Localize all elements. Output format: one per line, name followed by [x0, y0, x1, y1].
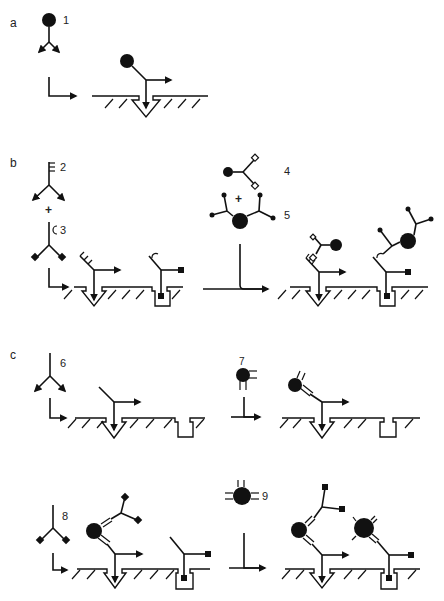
- hatched-surface-icon: [280, 418, 420, 438]
- panel-label-b: b: [10, 156, 17, 170]
- plus-sign: +: [45, 203, 52, 217]
- bound-complex-3-5: [373, 207, 434, 294]
- reaction-arrow-icon: [244, 533, 265, 568]
- molecule-7-icon: [236, 368, 257, 390]
- bound-complex-full-right: [352, 516, 414, 575]
- plus-sign: +: [235, 192, 242, 206]
- molecule-label-4: 4: [284, 165, 290, 177]
- hatched-surface-icon: [72, 569, 210, 589]
- panel-a: a 1: [10, 13, 208, 117]
- molecule-4-icon: [223, 154, 259, 189]
- panel-c: c 6 7: [10, 348, 420, 438]
- figure-canvas: a 1 b: [0, 0, 444, 601]
- molecule-label-2: 2: [60, 161, 66, 173]
- panel-b: b 2 + 3: [10, 154, 434, 306]
- panel-label-c: c: [10, 348, 16, 362]
- molecule-label-3: 3: [60, 224, 66, 236]
- reaction-arrow-icon: [244, 397, 260, 417]
- molecule-label-1: 1: [63, 14, 69, 26]
- reaction-arrow-icon: [50, 398, 66, 418]
- molecule-1-antibody-icon: [39, 13, 59, 52]
- molecule-label-5: 5: [284, 209, 290, 221]
- hatched-surface-icon: [278, 287, 428, 306]
- reaction-arrow-icon: [240, 244, 268, 289]
- panel-c-row-2: 8: [36, 480, 420, 589]
- molecule-label-8: 8: [62, 510, 68, 522]
- hatched-surface-icon: [92, 96, 208, 117]
- bound-complex-full-left: [291, 484, 348, 582]
- molecule-label-7: 7: [239, 356, 245, 367]
- panel-label-a: a: [10, 16, 17, 30]
- hatched-surface-icon: [68, 418, 205, 438]
- diagram-svg: a 1 b: [0, 0, 444, 601]
- reaction-arrow-icon: [49, 268, 68, 287]
- molecule-5-icon: [210, 193, 276, 230]
- molecule-label-6: 6: [60, 357, 66, 369]
- reaction-arrow-icon: [49, 77, 76, 96]
- molecule-9-icon: [225, 480, 259, 505]
- molecule-label-9: 9: [262, 490, 268, 502]
- hatched-surface-icon: [282, 569, 420, 589]
- bound-molecule-1: [120, 54, 171, 108]
- reaction-arrow-icon: [53, 553, 67, 570]
- hatched-surface-icon: [64, 287, 183, 306]
